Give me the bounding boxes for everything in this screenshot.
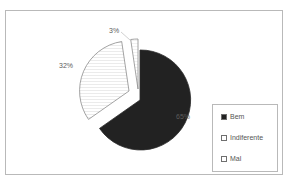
legend-item-mal: Mal: [221, 155, 241, 163]
legend-label-mal: Mal: [230, 155, 241, 163]
chart-screenshot: Como você se sente ao sentir-se...: [0, 0, 288, 182]
legend-swatch-bem: [221, 114, 227, 120]
slice-label-indiferente: 32%: [59, 62, 73, 69]
legend-item-indiferente: Indiferente: [221, 134, 263, 142]
chart-title: Como você se sente ao sentir-se...: [0, 0, 288, 2]
chart-legend: Bem Indiferente Mal: [212, 104, 278, 172]
legend-label-bem: Bem: [230, 113, 244, 121]
pie-slice-mal: [131, 39, 138, 89]
slice-label-mal: 3%: [109, 27, 119, 34]
legend-swatch-mal: [221, 156, 227, 162]
pie-slice-indiferente: [80, 42, 129, 120]
slice-label-bem: 65%: [176, 113, 190, 120]
legend-label-indiferente: Indiferente: [230, 134, 263, 142]
legend-swatch-indiferente: [221, 135, 227, 141]
legend-item-bem: Bem: [221, 113, 244, 121]
